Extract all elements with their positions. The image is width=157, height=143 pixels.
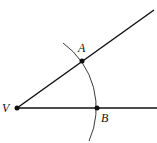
label-v: V	[2, 101, 11, 115]
point-v	[15, 106, 20, 111]
point-b	[95, 106, 100, 111]
label-a: A	[77, 41, 86, 55]
angle-construction-diagram: V A B	[0, 0, 157, 143]
label-b: B	[101, 111, 109, 125]
ray-va	[17, 10, 154, 108]
point-a	[80, 59, 85, 64]
construction-arc	[63, 43, 96, 141]
